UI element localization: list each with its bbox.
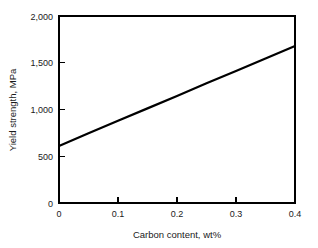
x-tick-label-0.2: 0.2 — [171, 209, 184, 219]
y-tick-label-1500: 1,500 — [30, 58, 53, 68]
x-tick-label-0.3: 0.3 — [230, 209, 243, 219]
y-tick-label-0: 0 — [48, 199, 53, 209]
y-axis-title: Yield strength, MPa — [7, 68, 18, 151]
plot-frame — [59, 16, 295, 203]
x-axis-title: Carbon content, wt% — [133, 229, 222, 240]
y-tick-labels: 0 500 1,000 1,500 2,000 — [30, 12, 53, 209]
y-tick-label-1000: 1,000 — [30, 105, 53, 115]
y-tick-label-2000: 2,000 — [30, 12, 53, 22]
x-tick-label-0: 0 — [56, 209, 61, 219]
x-tick-labels: 0 0.1 0.2 0.3 0.4 — [56, 209, 301, 219]
x-tick-label-0.4: 0.4 — [289, 209, 302, 219]
chart-canvas: 0 500 1,000 1,500 2,000 0 0.1 0.2 0.3 0.… — [0, 0, 318, 248]
y-tick-label-500: 500 — [38, 152, 53, 162]
chart-figure: 0 500 1,000 1,500 2,000 0 0.1 0.2 0.3 0.… — [0, 0, 318, 248]
data-line-yield-strength — [59, 46, 295, 146]
series-group — [59, 46, 295, 146]
x-tick-label-0.1: 0.1 — [112, 209, 125, 219]
